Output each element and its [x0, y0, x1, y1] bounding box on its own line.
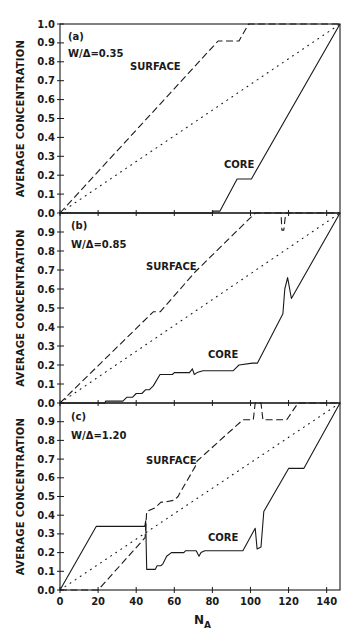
parameter-label: W/Δ=0.35 [68, 48, 124, 59]
y-tick-label: 0.4 [37, 322, 55, 333]
y-tick-label: 0.2 [37, 170, 55, 181]
x-tick-label: 120 [278, 596, 299, 607]
parameter-label: W/Δ=0.85 [71, 239, 127, 250]
y-tick-label: 0.4 [37, 510, 55, 521]
y-tick-label: 0.6 [37, 284, 55, 295]
y-axis-label: AVERAGE CONCENTRATION [15, 40, 26, 198]
figure: 0.00.10.20.30.40.50.60.70.80.91.0(a)W/Δ=… [0, 0, 352, 637]
panel-b: 0.00.10.20.30.40.50.60.70.80.9(b)W/Δ=0.8… [15, 213, 340, 409]
y-tick-label: 0.9 [37, 416, 55, 427]
y-tick-label: 0.1 [37, 189, 55, 200]
core-label: CORE [224, 159, 255, 170]
y-tick-label: 0.2 [37, 360, 55, 371]
x-axis-label: NA [194, 613, 211, 630]
x-tick-label: 100 [240, 596, 261, 607]
y-tick-label: 0.5 [37, 303, 55, 314]
y-tick-label: 0.8 [37, 435, 55, 446]
y-tick-label: 0.3 [37, 528, 55, 539]
core-label: CORE [208, 532, 239, 543]
y-tick-label: 0.1 [37, 379, 55, 390]
parameter-label: W/Δ=1.20 [71, 430, 127, 441]
y-tick-label: 0.0 [37, 208, 55, 219]
x-tick-label: 80 [205, 596, 219, 607]
y-tick-label: 0.7 [37, 75, 55, 86]
y-tick-label: 0.0 [37, 585, 55, 596]
x-tick-label: 60 [167, 596, 181, 607]
y-tick-label: 0.7 [37, 265, 55, 276]
y-tick-label: 0.5 [37, 491, 55, 502]
y-tick-label: 0.6 [37, 472, 55, 483]
x-tick-label: 0 [57, 596, 64, 607]
y-tick-label: 0.3 [37, 151, 55, 162]
panel-a: 0.00.10.20.30.40.50.60.70.80.91.0(a)W/Δ=… [15, 19, 340, 219]
y-tick-label: 0.9 [37, 37, 55, 48]
x-tick-label: 140 [316, 596, 337, 607]
y-tick-label: 0.4 [37, 132, 55, 143]
surface-label: SURFACE [146, 261, 197, 272]
panel-label: (b) [71, 220, 87, 231]
y-tick-label: 1.0 [37, 19, 55, 30]
y-tick-label: 0.5 [37, 113, 55, 124]
x-tick-label: 40 [129, 596, 143, 607]
y-axis-label: AVERAGE CONCENTRATION [15, 418, 26, 576]
panel-label: (a) [68, 31, 84, 42]
y-tick-label: 0.8 [37, 246, 55, 257]
y-tick-label: 0.1 [37, 566, 55, 577]
y-tick-label: 0.3 [37, 341, 55, 352]
y-tick-label: 0.0 [37, 398, 55, 409]
y-tick-label: 0.2 [37, 547, 55, 558]
surface-label: SURFACE [146, 455, 197, 466]
y-tick-label: 0.9 [37, 227, 55, 238]
y-tick-label: 0.7 [37, 454, 55, 465]
panel-c: 0.00.10.20.30.40.50.60.70.80.90204060801… [15, 403, 340, 607]
y-tick-label: 0.8 [37, 56, 55, 67]
surface-label: SURFACE [130, 61, 181, 72]
core-label: CORE [208, 349, 239, 360]
x-tick-label: 20 [91, 596, 105, 607]
panel-label: (c) [71, 411, 86, 422]
y-axis-label: AVERAGE CONCENTRATION [15, 229, 26, 387]
y-tick-label: 0.6 [37, 94, 55, 105]
